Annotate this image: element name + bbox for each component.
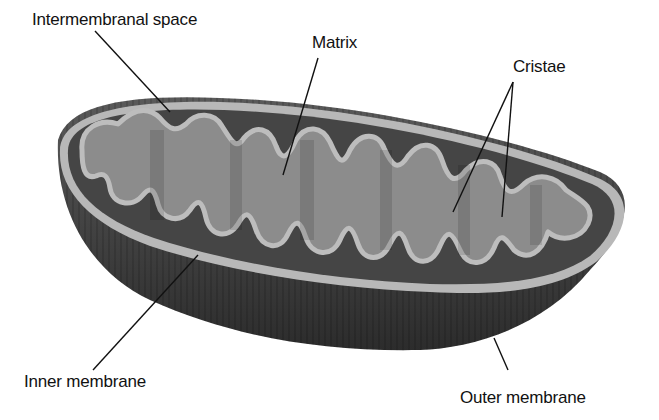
label-matrix: Matrix xyxy=(312,33,357,53)
leader-intermembranal-space xyxy=(95,31,170,112)
label-intermembranal-space: Intermembranal space xyxy=(32,10,197,30)
label-cristae: Cristae xyxy=(513,57,565,77)
label-outer-membrane: Outer membrane xyxy=(460,388,586,408)
label-inner-membrane: Inner membrane xyxy=(24,372,146,392)
leader-outer-membrane xyxy=(494,338,508,370)
